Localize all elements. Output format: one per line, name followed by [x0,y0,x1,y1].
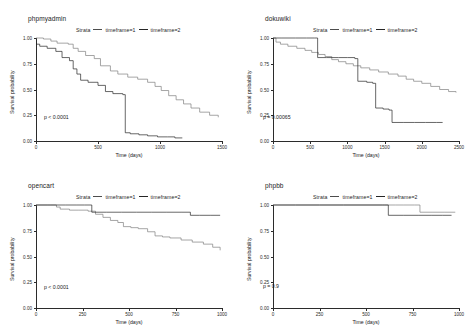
panel-opencart: opencart Strata timeframe=1 timeframe=2 … [0,167,237,334]
x-axis-tick [413,308,414,311]
y-axis-tick-label: 0.00 [251,139,269,144]
survival-plot-grid: phpmyadmin Strata timeframe=1 timeframe=… [0,0,474,334]
x-axis-tick-label: 750 [172,312,180,317]
x-axis-tick-label: 2000 [417,145,427,150]
x-axis-label: Time (days) [115,319,142,325]
p-value-annotation: p < 0.0001 [44,284,69,290]
x-axis-label: Time (days) [352,319,379,325]
x-axis-tick [98,141,99,144]
panel-title: opencart [28,182,54,189]
legend-label-timeframe2: timeframe=2 [388,194,418,200]
x-axis-tick [273,141,274,144]
x-axis-tick-label: 500 [94,145,102,150]
x-axis-label: Time (days) [115,152,142,158]
legend-title: Strata [313,194,327,200]
legend-swatch-timeframe2 [376,29,385,30]
x-axis-tick [160,141,161,144]
curve-timeframe-2 [36,205,220,215]
legend-label-timeframe1: timeframe=1 [105,27,135,33]
y-axis-tick-label: 0.75 [251,61,269,66]
legend-swatch-timeframe1 [330,196,339,197]
plot-area: 0.000.250.500.751.0005001000150020002500… [273,38,459,141]
plot-area: 0.000.250.500.751.0002505007501000Surviv… [36,205,222,308]
x-axis-tick-label: 1500 [379,145,389,150]
y-axis-tick-label: 0.50 [14,87,32,92]
legend-label-timeframe1: timeframe=1 [342,194,372,200]
p-value-annotation: p < 0.0001 [44,114,69,120]
y-axis-label: Survival probability [246,70,252,114]
legend-swatch-timeframe1 [330,29,339,30]
panel-dokuwiki: dokuwiki Strata timeframe=1 timeframe=2 … [237,0,474,167]
legend-swatch-timeframe2 [376,196,385,197]
survival-curves [36,38,222,141]
x-axis-tick [36,141,37,144]
legend-label-timeframe2: timeframe=2 [388,27,418,33]
curve-timeframe-1 [273,205,455,212]
legend-swatch-timeframe2 [139,29,148,30]
y-axis-label: Survival probability [9,237,15,281]
p-value-annotation: p = 0.9 [263,283,279,289]
x-axis-tick-label: 1000 [217,312,227,317]
panel-title: phpmyadmin [28,15,66,22]
x-axis-tick-label: 500 [125,312,133,317]
legend-label-timeframe1: timeframe=1 [105,194,135,200]
y-axis-tick-label: 0.75 [251,228,269,233]
x-axis-tick-label: 500 [362,312,370,317]
x-axis-tick [385,141,386,144]
panel-title: phpbb [265,182,284,189]
x-axis-line [36,141,222,142]
legend: Strata timeframe=1 timeframe=2 [76,27,181,33]
survival-curves [273,205,459,308]
x-axis-tick-label: 0 [272,312,275,317]
x-axis-tick-label: 250 [316,312,324,317]
y-axis-tick-label: 0.50 [251,254,269,259]
y-axis-label: Survival probability [246,237,252,281]
curve-timeframe-1 [36,38,218,117]
x-axis-tick [320,308,321,311]
legend-label-timeframe2: timeframe=2 [151,194,181,200]
legend-title: Strata [76,194,90,200]
legend-swatch-timeframe1 [93,196,102,197]
legend-title: Strata [313,27,327,33]
y-axis-tick-label: 0.25 [14,280,32,285]
legend-swatch-timeframe2 [139,196,148,197]
y-axis-tick-label: 1.00 [251,36,269,41]
legend-title: Strata [76,27,90,33]
x-axis-tick-label: 2500 [454,145,464,150]
x-axis-tick [310,141,311,144]
x-axis-tick-label: 1500 [217,145,227,150]
y-axis-tick-label: 0.00 [251,306,269,311]
x-axis-tick [366,308,367,311]
x-axis-tick [222,141,223,144]
y-axis-tick-label: 0.50 [14,254,32,259]
x-axis-tick-label: 750 [409,312,417,317]
curve-timeframe-2 [273,205,452,215]
y-axis-tick-label: 0.75 [14,61,32,66]
legend-swatch-timeframe1 [93,29,102,30]
y-axis-tick-label: 1.00 [14,203,32,208]
x-axis-tick [459,308,460,311]
y-axis-tick-label: 0.75 [14,228,32,233]
x-axis-tick [176,308,177,311]
x-axis-tick [347,141,348,144]
x-axis-tick-label: 500 [306,145,314,150]
x-axis-tick-label: 250 [79,312,87,317]
y-axis-tick-label: 0.50 [251,87,269,92]
legend-label-timeframe1: timeframe=1 [342,27,372,33]
x-axis-tick-label: 0 [272,145,275,150]
survival-curves [273,38,459,141]
curve-timeframe-2 [36,44,182,138]
x-axis-label: Time (days) [352,152,379,158]
x-axis-tick [222,308,223,311]
x-axis-tick [83,308,84,311]
p-value-annotation: p = 0.00065 [263,114,291,120]
x-axis-tick [422,141,423,144]
x-axis-tick [129,308,130,311]
x-axis-tick-label: 1000 [454,312,464,317]
panel-phpbb: phpbb Strata timeframe=1 timeframe=2 0.0… [237,167,474,334]
plot-area: 0.000.250.500.751.00050010001500Survival… [36,38,222,141]
x-axis-tick-label: 0 [35,312,38,317]
survival-curves [36,205,222,308]
x-axis-tick [273,308,274,311]
legend: Strata timeframe=1 timeframe=2 [313,27,418,33]
